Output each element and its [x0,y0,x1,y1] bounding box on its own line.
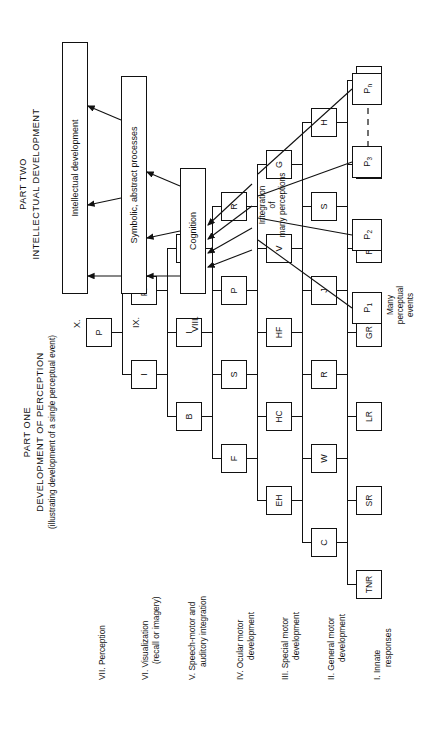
node-w-general[interactable]: W [311,444,337,473]
connector-ii-i-stem-1 [337,542,347,543]
p2-events-label: Many perceptual events [386,268,416,342]
p2-node-pn-sub: n [366,84,373,88]
p2-events-line3: events [406,293,415,317]
level-text-i-2: responses [383,628,393,667]
level-numeral-iii: III. [280,671,291,680]
level-text-iv-2: development [246,612,256,660]
connector-ii-i-stem-3 [337,374,347,375]
part-two-host: PART TWO INTELLECTUAL DEVELOPMENT X. IX.… [0,0,434,368]
connector-iv-iii-stem-2 [247,374,257,375]
node-eh-special[interactable]: EH [266,486,292,515]
level-label-iii: III. Special motor development [280,612,301,680]
node-f-ocular[interactable]: F [221,444,247,473]
level-label-vii: VII. Perception [97,625,108,680]
level-numeral-v: V. [187,673,198,680]
level-text-ii: General motor [326,617,336,671]
connector-iv-drop-2 [212,374,221,375]
level-text-vi-2: (recall or imagery) [151,597,161,664]
level-text-ii-2: development [337,614,347,662]
connector-i-drop-2 [347,500,356,501]
node-c-general[interactable]: C [311,528,337,557]
connector-ii-drop-2 [302,458,311,459]
level-text-vi: Visualization [140,621,150,668]
level-text-v-2: auditory integration [198,596,208,667]
connector-i-drop-3 [347,416,356,417]
connector-vi-drop-1 [122,374,131,375]
connector-ii-i-stem-2 [337,458,347,459]
p2-node-p2-base: P [362,234,372,240]
p2-node-p3-base: P [362,161,372,167]
p2-integration-line3: many perceptions [278,173,287,238]
p2-node-p1-sub: 1 [366,303,373,307]
p2-node-p2-sub: 2 [366,230,373,234]
connector-iii-drop-1 [257,500,266,501]
connector-v-drop-1 [167,416,176,417]
node-sr-innate[interactable]: SR [356,486,382,515]
level-label-ii: II. General motor development [326,614,347,680]
p2-node-p1-base: P [362,307,372,313]
connector-vi-v-stem-1 [157,374,167,375]
level-label-vi: VI. Visualization (recall or imagery) [140,597,161,680]
p2-events-line1: Many [386,295,395,315]
level-numeral-i: I. [372,675,383,680]
p2-node-p3[interactable]: P3 [352,146,382,178]
level-numeral-iv: IV. [235,671,246,680]
p2-node-p1[interactable]: P1 [352,292,382,324]
connector-iii-ii-stem-1 [292,500,302,501]
p2-node-p3-sub: 3 [366,157,373,161]
p2-node-p2[interactable]: P2 [352,219,382,251]
figure-page: PART ONE DEVELOPMENT OF PERCEPTION (illu… [0,0,434,735]
node-lr-innate[interactable]: LR [356,402,382,431]
level-text-iii: Special motor [280,617,290,668]
connector-v-iv-stem-1 [202,416,212,417]
p2-node-pn-base: P [362,88,372,94]
connector-iv-drop-1 [212,458,221,459]
connector-ii-drop-1 [302,542,311,543]
p2-integration-line2: of [268,202,277,209]
connector-iii-ii-stem-2 [292,416,302,417]
level-label-i: I. Innate responses [372,628,393,680]
node-tnr-innate[interactable]: TNR [356,570,382,599]
p2-node-pn[interactable]: Pn [352,73,382,105]
level-numeral-vii: VII. [97,667,108,680]
level-label-v: V. Speech-motor and auditory integration [187,596,208,680]
connector-ii-drop-3 [302,374,311,375]
level-label-iv: IV. Ocular motor development [235,612,256,680]
node-b-speech[interactable]: B [176,402,202,431]
p2-integration-label: Integration of many perceptions [258,165,288,245]
level-text-vii: Perception [97,625,107,665]
level-text-i: Innate [372,650,382,673]
node-hc-special[interactable]: HC [266,402,292,431]
connector-i-drop-1 [347,584,356,585]
connector-iv-iii-stem-1 [247,458,257,459]
p2-events-line2: perceptual [396,286,405,324]
level-text-iv: Ocular motor [235,620,245,668]
figure-stage: PART ONE DEVELOPMENT OF PERCEPTION (illu… [0,334,434,702]
connector-iii-drop-2 [257,416,266,417]
level-text-v: Speech-motor and [187,602,197,671]
level-numeral-vi: VI. [140,670,151,680]
level-numeral-ii: II. [326,673,337,680]
level-text-iii-2: development [291,612,301,660]
p2-integration-line1: Integration [258,186,267,225]
